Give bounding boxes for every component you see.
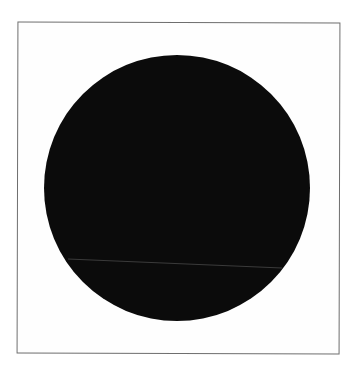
black-circle	[44, 55, 310, 321]
figure	[0, 0, 358, 372]
canvas	[0, 0, 358, 372]
